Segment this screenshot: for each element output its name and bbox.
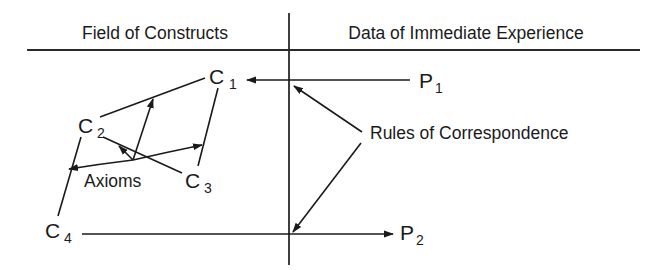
- axiom-arrow-to-c1-c3: [133, 145, 202, 160]
- construct-c1-subscript: 1: [229, 76, 237, 92]
- construct-c4: C 4: [45, 219, 72, 246]
- header-data-of-immediate-experience: Data of Immediate Experience: [348, 23, 583, 43]
- rules-of-correspondence-label: Rules of Correspondence: [370, 123, 568, 143]
- axioms-label: Axioms: [84, 171, 142, 191]
- edge-c2-c4: [58, 137, 81, 216]
- construct-c2: C 2: [78, 114, 105, 141]
- axiom-arrow-to-c2-c1: [133, 99, 153, 160]
- edge-c2-c3: [103, 137, 182, 173]
- edge-c2-c1: [100, 78, 205, 117]
- construct-c1-letter: C: [209, 65, 224, 88]
- construct-c2-letter: C: [78, 114, 93, 137]
- construct-c2-subscript: 2: [97, 125, 105, 141]
- observation-p2: P 2: [400, 221, 424, 248]
- header-field-of-constructs: Field of Constructs: [82, 23, 228, 43]
- observation-p1: P 1: [419, 69, 443, 96]
- observation-p1-subscript: 1: [435, 80, 443, 96]
- observation-p2-subscript: 2: [416, 232, 424, 248]
- construct-c3: C 3: [185, 169, 212, 196]
- rules-arrow-lower: [293, 143, 361, 232]
- rules-arrow-upper: [294, 86, 362, 132]
- construct-c3-subscript: 3: [204, 180, 212, 196]
- construct-c4-letter: C: [45, 219, 60, 242]
- observation-p1-letter: P: [419, 69, 433, 92]
- construct-c4-subscript: 4: [64, 230, 72, 246]
- constructs-diagram: Field of Constructs Data of Immediate Ex…: [0, 0, 663, 270]
- construct-c3-letter: C: [185, 169, 200, 192]
- axiom-arrow-to-c2-c4: [69, 160, 133, 169]
- construct-c1: C 1: [209, 65, 237, 92]
- observation-p2-letter: P: [400, 221, 414, 244]
- edge-c1-c3: [198, 88, 218, 166]
